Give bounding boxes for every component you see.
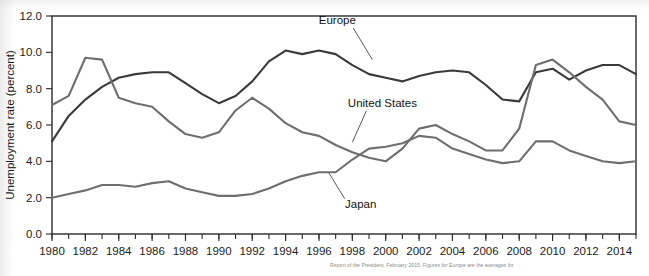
x-tick-label-1996: 1996: [306, 245, 332, 257]
x-tick-label-2000: 2000: [373, 245, 399, 257]
leader-line-japan: [329, 173, 345, 199]
y-tick-label-8.0: 8.0: [26, 83, 42, 95]
figure-page: 0.02.04.06.08.010.012.0 1980198219841986…: [0, 0, 649, 276]
x-tick-label-2012: 2012: [573, 245, 599, 257]
x-tick-label-1992: 1992: [239, 245, 265, 257]
x-tick-label-2010: 2010: [540, 245, 566, 257]
y-axis-title: Unemployment rate (percent): [4, 50, 16, 200]
x-tick-label-1998: 1998: [340, 245, 366, 257]
unemployment-rate-line-chart: 0.02.04.06.08.010.012.0 1980198219841986…: [0, 0, 649, 276]
x-tick-label-1988: 1988: [173, 245, 199, 257]
series-label-europe: Europe: [319, 14, 356, 26]
x-tick-label-2004: 2004: [440, 245, 466, 257]
series-label-united-states: United States: [348, 97, 417, 109]
x-tick-label-2008: 2008: [506, 245, 532, 257]
x-tick-label-1980: 1980: [39, 245, 65, 257]
series-annotations: EuropeUnited StatesJapan: [319, 14, 417, 209]
x-tick-label-2002: 2002: [406, 245, 432, 257]
y-tick-label-0.0: 0.0: [26, 228, 42, 240]
series-label-japan: Japan: [345, 198, 376, 210]
x-tick-label-1990: 1990: [206, 245, 232, 257]
x-tick-label-2014: 2014: [607, 245, 633, 257]
y-tick-label-10.0: 10.0: [20, 46, 42, 58]
x-tick-label-1994: 1994: [273, 245, 299, 257]
y-tick-label-2.0: 2.0: [26, 192, 42, 204]
y-axis-tick-labels: 0.02.04.06.08.010.012.0: [20, 10, 42, 240]
x-tick-label-1982: 1982: [73, 245, 99, 257]
x-tick-label-1986: 1986: [139, 245, 165, 257]
source-note: Report of the President, February 2015. …: [330, 262, 649, 269]
x-axis-minor-tick-marks: [52, 234, 636, 239]
x-tick-label-1984: 1984: [106, 245, 132, 257]
leader-line-united-states: [352, 111, 366, 142]
y-tick-label-4.0: 4.0: [26, 155, 42, 167]
y-tick-label-12.0: 12.0: [20, 10, 42, 22]
series-line-japan: [52, 136, 636, 198]
y-tick-label-6.0: 6.0: [26, 119, 42, 131]
leader-line-europe: [353, 28, 372, 59]
x-tick-label-2006: 2006: [473, 245, 499, 257]
y-axis-tick-marks: [46, 16, 52, 234]
series-line-europe: [52, 51, 636, 142]
x-axis-tick-labels: 1980198219841986198819901992199419961998…: [39, 245, 633, 257]
data-series-group: [52, 51, 636, 198]
plot-area-frame: [52, 16, 636, 234]
